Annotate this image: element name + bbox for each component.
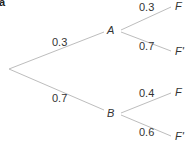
prob-root-B: 0.7 (52, 93, 67, 104)
node-B-Fprime: F' (175, 131, 184, 142)
node-A-Fprime: F' (175, 46, 184, 57)
node-A: A (107, 25, 114, 36)
node-B-F: F (175, 87, 182, 98)
node-B: B (107, 108, 114, 119)
tree-lines (0, 0, 186, 142)
prob-root-A: 0.3 (52, 37, 67, 48)
prob-B-F: 0.4 (139, 88, 154, 99)
prob-A-Fprime: 0.7 (139, 41, 154, 52)
prob-A-F: 0.3 (139, 2, 154, 13)
prob-B-Fprime: 0.6 (139, 127, 154, 138)
node-A-F: F (175, 1, 182, 12)
panel-label: a (0, 0, 5, 8)
